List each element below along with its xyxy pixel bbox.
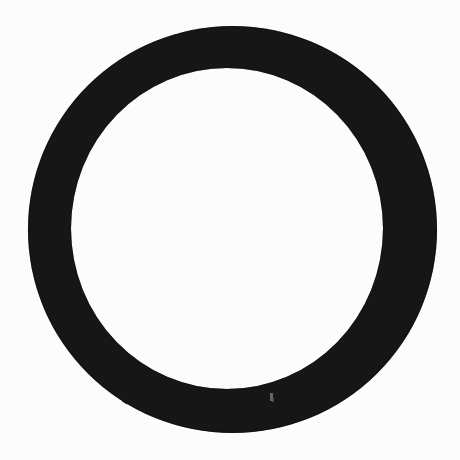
scan-speck-bottom-2 <box>272 398 274 402</box>
ring-ink-group <box>0 0 460 460</box>
black-ring-shape <box>0 0 460 460</box>
black-ring-figure <box>0 0 460 460</box>
figure-canvas <box>0 0 460 460</box>
